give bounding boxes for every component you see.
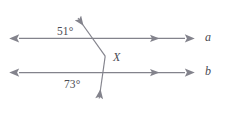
transversal-lower-ray <box>99 56 105 98</box>
angle-label-73: 73° <box>64 79 80 91</box>
transversal-upper-ray <box>78 18 105 56</box>
line-label-a: a <box>205 31 211 43</box>
angle-label-51: 51° <box>57 26 73 38</box>
geometry-figure: 51° 73° X a b <box>0 0 226 114</box>
transversal-group <box>78 18 105 99</box>
line-label-b: b <box>205 65 211 77</box>
line-a-group <box>19 35 185 42</box>
vertex-label-x: X <box>113 51 120 63</box>
